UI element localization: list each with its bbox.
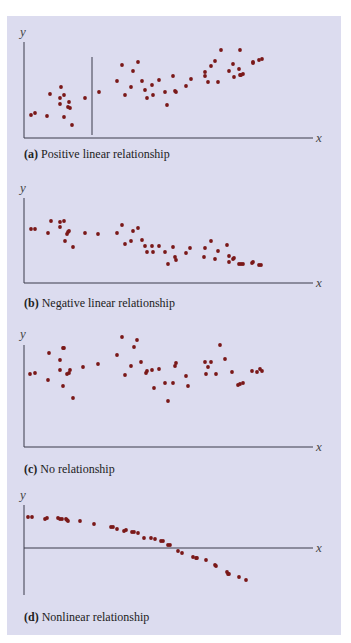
data-point [238,48,242,52]
panel-b-x-label: x [316,275,322,291]
data-point [97,90,101,94]
panel-d-caption-text: Nonlinear relationship [42,610,150,624]
data-point [152,386,156,390]
data-point [68,368,72,372]
data-point [241,72,245,76]
data-point [203,74,207,78]
data-point [232,256,236,260]
data-point [227,69,231,73]
data-point [115,353,119,357]
data-point [61,384,65,388]
data-point [157,78,161,82]
data-point [174,258,178,262]
data-point [67,100,71,104]
data-point [237,575,241,579]
data-point [161,539,165,543]
panel-a-points [29,48,264,127]
panel-c-x-label: x [316,439,322,455]
data-point [150,83,154,87]
data-point [157,244,161,248]
data-point [223,357,227,361]
panel-d-y-label: y [20,487,26,503]
panel-c-caption-text: No relationship [40,462,114,476]
data-point [28,372,32,376]
panel-d-tag: (d) [24,610,39,624]
data-point [123,93,127,97]
panel-a-tag: (a) [24,147,38,161]
data-point [136,226,140,230]
data-point [70,123,74,127]
data-point [219,48,223,52]
data-point [58,96,62,100]
data-point [111,525,115,529]
data-point [184,84,188,88]
panel-d-x-label: x [316,540,322,556]
data-point [166,399,170,403]
data-point [145,369,149,373]
data-point [213,59,217,63]
data-point [71,396,75,400]
panel-c-caption: (c) No relationship [24,462,115,477]
data-point [163,90,167,94]
data-point [60,517,64,521]
data-point [174,361,178,365]
data-point [171,74,175,78]
data-point [58,102,62,106]
data-point [26,515,30,519]
data-point [231,62,235,66]
data-point [129,239,133,243]
data-point [58,225,62,229]
data-point [188,246,192,250]
data-point [213,257,217,261]
data-point [45,114,49,118]
data-point [47,351,51,355]
data-point [96,232,100,236]
data-point [92,522,96,526]
data-point [136,60,140,64]
data-point [227,572,231,576]
data-point [171,245,175,249]
data-point [204,558,208,562]
panel-b-y-label: y [20,180,26,196]
data-point [163,381,167,385]
data-point [66,105,70,109]
data-point [216,80,220,84]
data-point [120,63,124,67]
data-point [140,238,144,242]
data-point [174,90,178,94]
data-point [203,360,207,364]
panel-a-caption-text: Positive linear relationship [41,147,170,161]
data-point [203,70,207,74]
data-point [216,249,220,253]
data-point [120,223,124,227]
data-point [209,64,213,68]
data-point [62,219,66,223]
data-point [67,229,71,233]
data-point [58,220,62,224]
data-point [131,69,135,73]
data-point [259,263,263,267]
data-point [151,250,155,254]
data-point [186,384,190,388]
data-point [260,369,264,373]
data-point [225,243,229,247]
data-point [176,549,180,553]
data-point [58,358,62,362]
data-point [83,231,87,235]
panel-b-caption-text: Negative linear relationship [42,296,175,310]
data-point [204,372,208,376]
data-point [115,527,119,531]
data-point [189,77,193,81]
data-point [139,360,143,364]
data-point [214,564,218,568]
data-point [195,556,199,560]
data-point [59,85,63,89]
data-point [142,536,146,540]
data-point [260,57,264,61]
data-point [218,343,222,347]
data-point [124,528,128,532]
data-point [227,254,231,258]
panel-a-x-label: x [316,130,322,146]
data-point [33,371,37,375]
data-point [33,111,37,115]
